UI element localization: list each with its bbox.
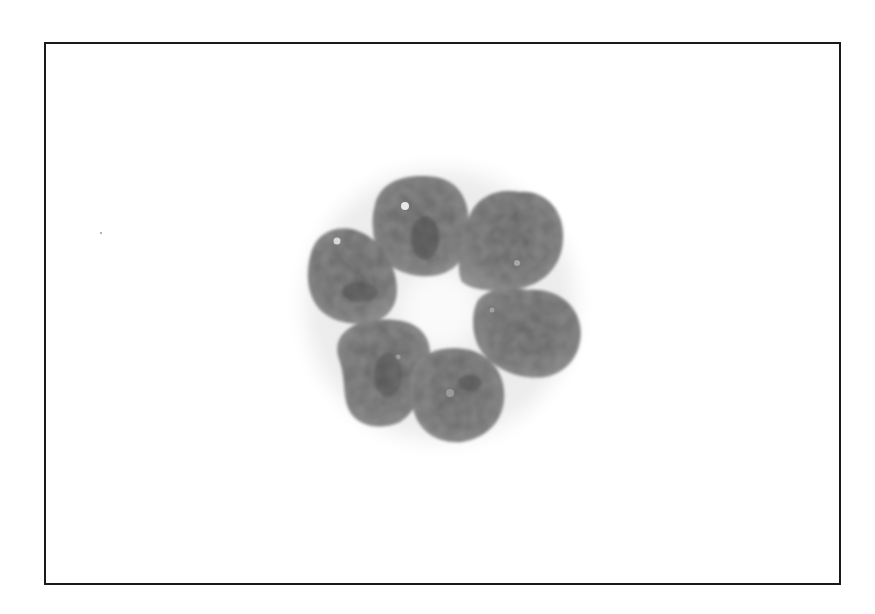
vacuole — [514, 260, 520, 266]
nucleus-lobe-bottom — [410, 348, 504, 442]
vacuole — [446, 389, 454, 397]
vacuole — [401, 202, 409, 210]
vacuole — [490, 308, 495, 313]
debris-speck — [100, 232, 102, 234]
vacuole — [334, 238, 341, 245]
cell-micrograph — [0, 0, 875, 614]
